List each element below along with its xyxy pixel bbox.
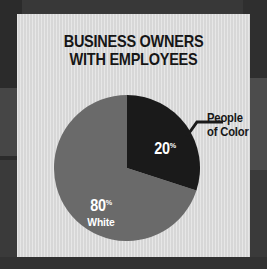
chart-card: BUSINESS OWNERS WITH EMPLOYEES 20% 80% W… xyxy=(17,14,250,257)
chart-title: BUSINESS OWNERS WITH EMPLOYEES xyxy=(31,32,236,68)
backdrop-top-band xyxy=(0,0,267,13)
pie-label-white: 80% White xyxy=(78,198,125,229)
pie-chart xyxy=(54,95,200,241)
pie-value-number-80: 80 xyxy=(90,197,106,214)
backdrop-bottom-band xyxy=(0,257,267,269)
pie-value-white: 80% xyxy=(78,198,125,214)
pie-label-people-of-color: 20% xyxy=(144,141,185,157)
pie-category-white: White xyxy=(78,217,125,229)
infographic-root: BUSINESS OWNERS WITH EMPLOYEES 20% 80% W… xyxy=(0,0,267,269)
percent-sign-80: % xyxy=(106,198,112,207)
callout-label-people-of-color: People of Color xyxy=(207,112,250,139)
pie-value-people-of-color: 20% xyxy=(144,141,185,157)
pie-chart-svg xyxy=(54,95,200,241)
pie-value-number-20: 20 xyxy=(154,140,170,157)
callout-label-line-2: of Color xyxy=(207,126,250,140)
percent-sign-20: % xyxy=(170,141,176,150)
chart-title-line-1: BUSINESS OWNERS xyxy=(31,32,236,50)
callout-label-line-1: People xyxy=(207,112,250,126)
chart-title-line-2: WITH EMPLOYEES xyxy=(31,50,236,68)
